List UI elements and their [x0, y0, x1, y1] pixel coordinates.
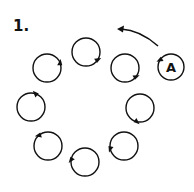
player-a: A	[157, 54, 184, 80]
circle-lower-right	[109, 132, 139, 160]
circle-lower-left	[34, 132, 62, 160]
diagram-canvas: 1. A	[0, 0, 194, 192]
curved-arrow-icon	[121, 29, 158, 46]
arrowhead-icon	[117, 26, 124, 33]
circle-ring	[17, 38, 154, 176]
circle-shape	[110, 132, 138, 160]
circle-upper-right	[111, 54, 140, 82]
circle-shape	[33, 54, 61, 82]
circle-shape	[17, 93, 45, 121]
circle-right	[126, 94, 154, 124]
circle-top	[72, 38, 101, 66]
circle-shape	[71, 148, 99, 176]
circle-upper-left	[33, 54, 62, 82]
circle-bottom	[69, 148, 99, 176]
circle-shape	[72, 38, 100, 66]
figure-number-label: 1.	[13, 17, 29, 35]
circle-left	[17, 91, 45, 121]
player-label: A	[166, 60, 176, 75]
circle-shape	[126, 94, 154, 122]
